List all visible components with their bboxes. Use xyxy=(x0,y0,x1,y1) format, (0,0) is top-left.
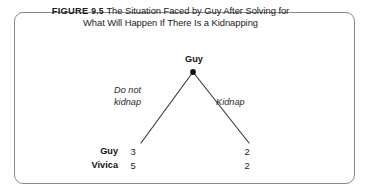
figure-caption-line-2: What Will Happen If There Is a Kidnappin… xyxy=(83,17,258,28)
branch-label-do-not-kidnap-line-2: kidnap xyxy=(114,97,141,107)
figure-number: 9.5 xyxy=(91,6,104,16)
payoff-guy-do-not-kidnap: 3 xyxy=(126,146,140,157)
figure-caption-line-1: The Situation Faced by Guy After Solving… xyxy=(106,5,289,16)
payoff-vivica-kidnap: 2 xyxy=(240,160,254,171)
payoff-guy-kidnap: 2 xyxy=(240,146,254,157)
branch-label-kidnap: Kidnap xyxy=(216,96,245,108)
branch-label-do-not-kidnap: Do not kidnap xyxy=(114,84,141,108)
root-node-label: Guy xyxy=(178,54,210,64)
payoff-row-label-guy: Guy xyxy=(56,146,118,156)
payoff-vivica-do-not-kidnap: 5 xyxy=(126,160,140,171)
payoff-row-label-vivica: Vivica xyxy=(56,160,118,170)
figure-label-word: FIGURE xyxy=(52,5,89,16)
payoff-table: Guy 3 2 Vivica 5 2 xyxy=(56,146,276,174)
table-row: Guy 3 2 xyxy=(56,146,276,160)
branch-label-do-not-kidnap-line-1: Do not xyxy=(114,85,141,95)
table-row: Vivica 5 2 xyxy=(56,160,276,174)
figure-caption: FIGURE 9.5 The Situation Faced by Guy Af… xyxy=(12,5,329,29)
branch-label-kidnap-line-1: Kidnap xyxy=(216,97,245,107)
